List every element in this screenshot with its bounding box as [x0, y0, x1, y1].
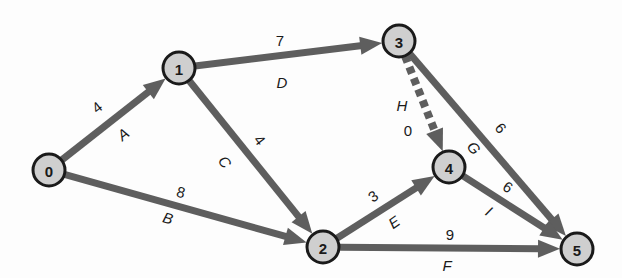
activity-label: H: [397, 97, 408, 114]
arrow-head-icon: [359, 37, 382, 55]
network-diagram: 4A8B4C7D3E9F6G0H6I 012345: [0, 0, 622, 278]
node-3: 3: [383, 25, 415, 57]
duration-label: 4: [251, 131, 270, 148]
node-0: 0: [33, 154, 65, 186]
duration-label: 7: [276, 32, 284, 49]
activity-label: I: [483, 203, 496, 220]
activity-line: [62, 91, 150, 160]
duration-label: 8: [175, 183, 187, 202]
node-label: 1: [175, 61, 183, 78]
activity-label: E: [385, 212, 404, 232]
duration-label: 3: [365, 187, 382, 206]
activity-line: [64, 174, 287, 237]
activity-line: [195, 46, 362, 67]
node-label: 0: [45, 163, 53, 180]
arrow-head-icon: [283, 228, 307, 245]
activity-label: A: [113, 124, 132, 144]
node-1: 1: [163, 52, 195, 84]
activity-line: [339, 247, 540, 249]
activity-label: D: [277, 74, 288, 91]
activity-line: [189, 80, 300, 218]
node-label: 3: [395, 34, 403, 51]
arrow-head-icon: [426, 127, 443, 151]
activity-line: [337, 187, 418, 239]
activity-label: F: [442, 257, 452, 274]
duration-label: 6: [492, 119, 510, 136]
activity-label: C: [215, 152, 235, 171]
node-label: 4: [445, 160, 454, 177]
edge-D: [195, 37, 382, 66]
duration-label: 0: [404, 122, 412, 139]
nodes-layer: 012345: [33, 25, 593, 265]
duration-label: 6: [500, 178, 516, 197]
node-4: 4: [433, 151, 465, 183]
edge-A: [62, 78, 166, 160]
activity-label: B: [161, 208, 175, 227]
edge-E: [337, 176, 435, 238]
node-label: 5: [573, 242, 581, 259]
duration-label: 9: [446, 226, 454, 243]
edges-layer: [62, 37, 566, 258]
duration-label: 4: [88, 98, 105, 117]
activity-network-canvas: 4A8B4C7D3E9F6G0H6I 012345: [0, 0, 622, 278]
node-label: 2: [319, 240, 327, 257]
edge-C: [189, 80, 312, 233]
arrow-head-icon: [538, 240, 560, 258]
node-5: 5: [561, 233, 593, 265]
node-2: 2: [307, 231, 339, 263]
